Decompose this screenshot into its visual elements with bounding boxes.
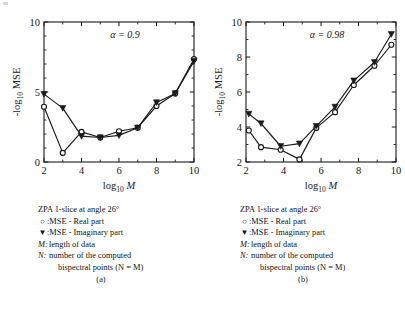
legend-row-real: ○:MSE - Real part [38, 216, 202, 228]
chart-b: 246810246810log10 M-log10 MSEα = 0.98 [202, 0, 404, 200]
legend-title-text: ZPA 1-slice at angle 26° [38, 205, 119, 214]
legend-row-n: N:number of the computed [240, 250, 404, 262]
x-tick-label: 4 [281, 165, 287, 176]
y-tick-label: 0 [35, 157, 40, 168]
y-axis-label: -log10 MSE [11, 68, 25, 117]
marker-triangle-down-filled [388, 32, 394, 38]
legend-row-m: M:length of data [240, 239, 404, 251]
legend-real-text: :MSE - Real part [249, 217, 306, 226]
series-line [44, 61, 194, 137]
legend-n-text: number of the computed [251, 251, 333, 260]
marker-circle-open [389, 42, 394, 47]
marker-circle-open [297, 157, 302, 162]
panel-label-a: (a) [0, 275, 202, 284]
x-tick-label: 10 [391, 165, 402, 176]
legend-a: ZPA 1-slice at angle 26° ○:MSE - Real pa… [0, 200, 202, 274]
x-tick-label: 8 [154, 165, 159, 176]
x-axis-label: log10 M [305, 180, 339, 194]
legend-b: ZPA 1-slice at angle 26° ○:MSE - Real pa… [202, 200, 404, 274]
y-tick-label: 10 [232, 17, 243, 28]
panel-a: 2468100510log10 M-log10 MSEα = 0.9 ZPA 1… [0, 0, 202, 321]
legend-title: ZPA 1-slice at angle 26° [240, 204, 404, 216]
x-tick-label: 2 [243, 165, 248, 176]
y-tick-label: 6 [237, 87, 242, 98]
chart-a: 2468100510log10 M-log10 MSEα = 0.9 [0, 0, 202, 200]
series-line [249, 45, 392, 160]
x-tick-label: 10 [189, 165, 200, 176]
legend-m-text: length of data [251, 240, 297, 249]
circle-open-icon: ○ [38, 216, 47, 228]
x-tick-label: 2 [41, 165, 46, 176]
marker-circle-open [60, 150, 65, 155]
plot-b-wrapper: 246810246810log10 M-log10 MSEα = 0.98 [202, 0, 404, 200]
y-tick-label: 8 [237, 52, 242, 63]
panel-b: 246810246810log10 M-log10 MSEα = 0.98 ZP… [202, 0, 404, 321]
legend-row-imag: ▼:MSE - Imaginary part [38, 227, 202, 239]
legend-n-key: N: [240, 250, 251, 262]
legend-row-n: N:number of the computed [38, 250, 202, 262]
legend-row-real: ○:MSE - Real part [240, 216, 404, 228]
circle-open-icon: ○ [240, 216, 249, 228]
plot-a-wrapper: 2468100510log10 M-log10 MSEα = 0.9 [0, 0, 202, 200]
legend-row-n2: bispectral points (N = M) [38, 262, 202, 274]
figure-root: 2468100510log10 M-log10 MSEα = 0.9 ZPA 1… [0, 0, 405, 321]
legend-m-key: M: [38, 239, 49, 251]
marker-circle-open [246, 128, 251, 133]
x-tick-label: 8 [356, 165, 361, 176]
marker-circle-open [42, 104, 47, 109]
y-tick-label: 5 [35, 87, 40, 98]
legend-n-key: N: [38, 250, 49, 262]
x-axis-label: log10 M [103, 180, 137, 194]
y-tick-label: 10 [30, 17, 41, 28]
y-axis-label: -log10 MSE [213, 68, 227, 117]
legend-row-imag: ▼:MSE - Imaginary part [240, 227, 404, 239]
annotation-alpha: α = 0.98 [310, 29, 345, 40]
legend-row-m: M:length of data [38, 239, 202, 251]
x-tick-label: 4 [79, 165, 85, 176]
y-tick-label: 2 [237, 157, 242, 168]
legend-n-text2: bispectral points (N = M) [260, 263, 345, 272]
legend-title: ZPA 1-slice at angle 26° [38, 204, 202, 216]
marker-circle-open [259, 145, 264, 150]
x-tick-label: 6 [116, 165, 121, 176]
panel-label-b: (b) [202, 275, 404, 284]
legend-title-text: ZPA 1-slice at angle 26° [240, 205, 321, 214]
y-tick-label: 4 [237, 122, 243, 133]
triangle-down-icon: ▼ [38, 227, 47, 239]
legend-imag-text: :MSE - Imaginary part [249, 228, 325, 237]
annotation-alpha: α = 0.9 [110, 29, 140, 40]
legend-m-text: length of data [49, 240, 95, 249]
x-tick-label: 6 [318, 165, 323, 176]
legend-n-text: number of the computed [49, 251, 131, 260]
legend-row-n2: bispectral points (N = M) [240, 262, 404, 274]
series-line [249, 34, 392, 146]
legend-m-key: M: [240, 239, 251, 251]
legend-real-text: :MSE - Real part [47, 217, 104, 226]
legend-imag-text: :MSE - Imaginary part [47, 228, 123, 237]
triangle-down-icon: ▼ [240, 227, 249, 239]
legend-n-text2: bispectral points (N = M) [58, 263, 143, 272]
